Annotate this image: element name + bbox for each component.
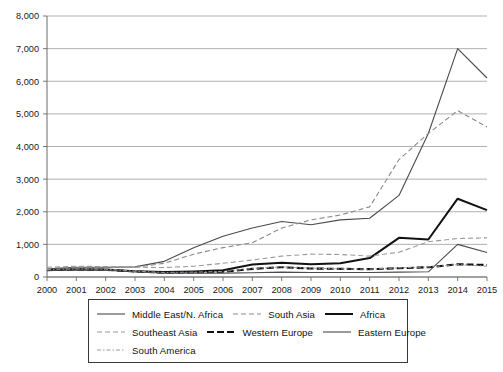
y-tick-label: 1,000 — [16, 240, 39, 250]
legend-line-swatch — [324, 309, 354, 319]
legend-item-africa[interactable]: Africa — [324, 309, 385, 320]
x-tick-label: 2008 — [271, 285, 291, 295]
x-tick-label: 2006 — [213, 285, 233, 295]
legend-item-southeast-asia[interactable]: Southeast Asia — [96, 327, 197, 338]
x-tick-label: 2010 — [330, 285, 350, 295]
x-tick-label: 2001 — [66, 285, 86, 295]
x-tick-label: 2002 — [95, 285, 115, 295]
y-tick-label: 5,000 — [16, 109, 39, 119]
legend-line-swatch — [96, 309, 126, 319]
legend-item-label: Western Europe — [242, 327, 313, 338]
line-chart: 01,0002,0003,0004,0005,0006,0007,0008,00… — [0, 0, 503, 372]
legend-row: Middle East/N. AfricaSouth AsiaAfrica — [96, 305, 400, 323]
legend-line-swatch — [232, 309, 262, 319]
legend-row: Southeast AsiaWestern EuropeEastern Euro… — [96, 323, 400, 341]
x-axis — [47, 277, 487, 281]
x-tick-label: 2007 — [242, 285, 262, 295]
legend-item-south-asia[interactable]: South Asia — [232, 309, 315, 320]
y-tick-labels: 01,0002,0003,0004,0005,0006,0007,0008,00… — [16, 11, 39, 282]
gridlines — [43, 16, 487, 277]
legend-line-swatch — [322, 327, 352, 337]
legend-item-eastern-europe[interactable]: Eastern Europe — [322, 327, 426, 338]
x-tick-label: 2005 — [183, 285, 203, 295]
y-tick-label: 4,000 — [16, 142, 39, 152]
x-tick-label: 2013 — [418, 285, 438, 295]
y-tick-label: 8,000 — [16, 11, 39, 21]
legend-item-south-america[interactable]: South America — [96, 345, 196, 356]
legend-item-middle-east-n-africa[interactable]: Middle East/N. Africa — [96, 309, 223, 320]
legend-line-swatch — [206, 327, 236, 337]
chart-legend: Middle East/N. AfricaSouth AsiaAfricaSou… — [88, 299, 408, 363]
x-tick-label: 2012 — [389, 285, 409, 295]
legend-item-label: Middle East/N. Africa — [132, 309, 223, 320]
y-tick-label: 2,000 — [16, 207, 39, 217]
x-tick-label: 2015 — [477, 285, 497, 295]
legend-item-label: Africa — [360, 309, 385, 320]
y-tick-label: 0 — [34, 272, 39, 282]
legend-line-swatch — [96, 327, 126, 337]
x-tick-label: 2004 — [154, 285, 174, 295]
legend-row: South America — [96, 341, 400, 359]
legend-item-label: South Asia — [268, 309, 315, 320]
legend-item-label: South America — [132, 345, 196, 356]
y-tick-label: 6,000 — [16, 77, 39, 87]
y-tick-label: 7,000 — [16, 44, 39, 54]
x-tick-label: 2000 — [37, 285, 57, 295]
legend-item-western-europe[interactable]: Western Europe — [206, 327, 313, 338]
legend-item-label: Eastern Europe — [358, 327, 426, 338]
y-tick-label: 3,000 — [16, 175, 39, 185]
x-tick-label: 2003 — [125, 285, 145, 295]
data-series-group — [47, 49, 487, 273]
x-tick-label: 2014 — [447, 285, 467, 295]
legend-item-label: Southeast Asia — [132, 327, 197, 338]
x-tick-label: 2011 — [360, 285, 380, 295]
legend-line-swatch — [96, 345, 126, 355]
x-tick-label: 2009 — [301, 285, 321, 295]
x-tick-labels: 2000200120022003200420052006200720082009… — [37, 285, 497, 295]
